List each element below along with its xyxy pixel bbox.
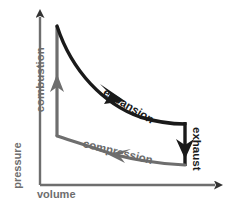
x-axis-label: volume — [37, 189, 76, 200]
process-label-combustion: combustion — [35, 36, 47, 124]
expansion-curve — [57, 26, 185, 124]
process-expansion — [57, 26, 185, 124]
process-label-exhaust: exhaust — [190, 118, 202, 180]
y-axis-label: pressure — [12, 136, 23, 196]
pv-diagram-figure: pressure volume combustion expansion exh… — [0, 0, 232, 207]
